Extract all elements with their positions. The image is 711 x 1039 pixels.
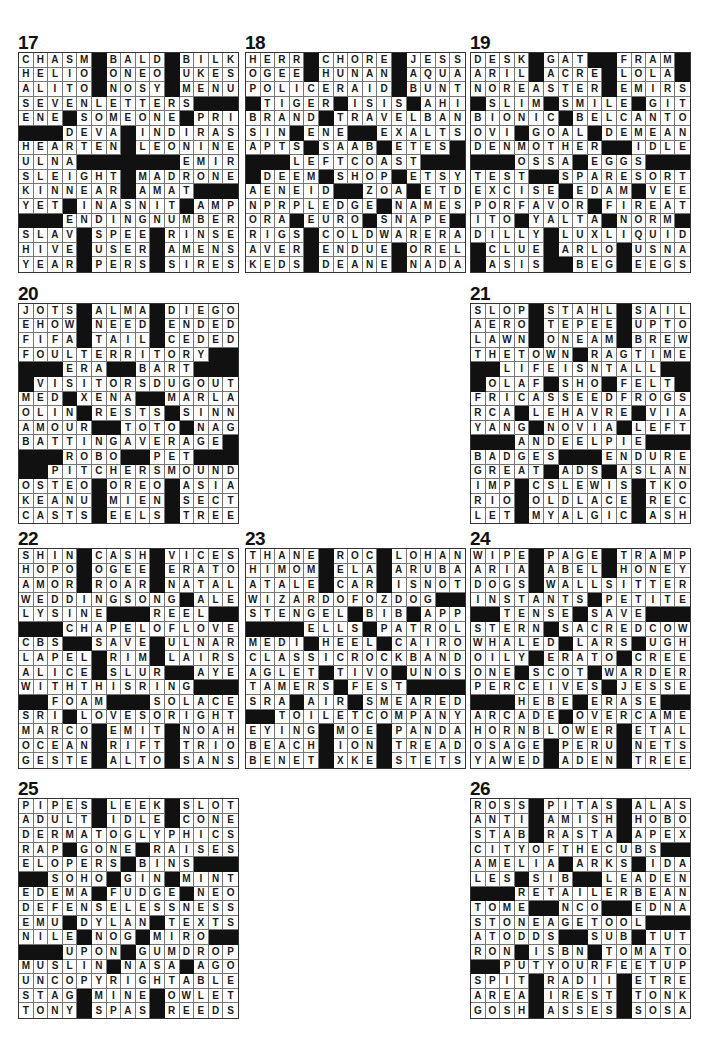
letter-cell: O [194, 377, 209, 392]
letter-cell: A [194, 960, 209, 975]
letter-cell: R [121, 348, 136, 363]
black-square [617, 739, 632, 754]
letter-cell: X [588, 228, 603, 243]
black-square [319, 666, 334, 681]
letter-cell: A [450, 724, 465, 739]
black-square [392, 666, 407, 681]
letter-cell: B [632, 843, 647, 858]
letter-cell: D [304, 111, 319, 126]
black-square [107, 872, 122, 887]
black-square [19, 465, 34, 480]
black-square [150, 304, 165, 319]
letter-cell: N [500, 141, 515, 156]
letter-cell: E [209, 989, 224, 1004]
letter-cell: O [48, 857, 63, 872]
black-square [529, 1003, 544, 1018]
letter-cell: C [92, 465, 107, 480]
black-square [180, 960, 195, 975]
black-square [150, 1003, 165, 1018]
letter-cell: A [559, 53, 574, 68]
black-square [304, 257, 319, 272]
black-square [544, 377, 559, 392]
black-square [529, 421, 544, 436]
black-square [19, 945, 34, 960]
letter-cell: S [150, 465, 165, 480]
black-square [529, 564, 544, 579]
letter-cell: S [544, 607, 559, 622]
letter-cell: J [407, 53, 422, 68]
letter-cell: E [486, 141, 501, 156]
letter-cell: N [165, 857, 180, 872]
crossword-puzzle-21: 21 SLOPSTAHLSAILAEROTEPEEUPTOLAWNONEAMBR… [470, 285, 691, 524]
black-square [165, 508, 180, 523]
letter-cell: E [194, 1003, 209, 1018]
black-square [63, 111, 78, 126]
letter-cell: D [19, 828, 34, 843]
letter-cell: A [602, 828, 617, 843]
letter-cell: O [194, 930, 209, 945]
black-square [180, 199, 195, 214]
letter-cell: E [363, 724, 378, 739]
letter-cell: S [529, 155, 544, 170]
letter-cell: R [261, 111, 276, 126]
letter-cell: P [77, 974, 92, 989]
letter-cell: B [515, 828, 530, 843]
letter-cell: R [436, 228, 451, 243]
letter-cell: I [48, 377, 63, 392]
letter-cell: R [646, 214, 661, 229]
letter-cell: G [209, 960, 224, 975]
black-square [48, 945, 63, 960]
letter-cell: R [136, 465, 151, 480]
letter-cell: A [471, 930, 486, 945]
letter-cell: A [559, 828, 574, 843]
letter-cell: R [500, 319, 515, 334]
letter-cell: C [544, 666, 559, 681]
letter-cell: L [136, 814, 151, 829]
letter-cell: A [107, 753, 122, 768]
letter-cell: M [19, 960, 34, 975]
letter-cell: S [544, 945, 559, 960]
letter-cell: R [588, 857, 603, 872]
letter-cell: D [136, 319, 151, 334]
letter-cell: I [348, 97, 363, 112]
letter-cell: R [334, 214, 349, 229]
letter-cell: K [194, 68, 209, 83]
black-square [261, 622, 276, 637]
black-square [392, 53, 407, 68]
black-square [63, 710, 78, 725]
letter-cell: L [421, 126, 436, 141]
letter-cell: U [421, 564, 436, 579]
black-square [165, 479, 180, 494]
letter-cell: L [602, 304, 617, 319]
letter-cell: R [500, 724, 515, 739]
black-square [275, 622, 290, 637]
black-square [121, 170, 136, 185]
letter-cell: N [19, 930, 34, 945]
letter-cell: A [48, 257, 63, 272]
letter-cell: X [334, 753, 349, 768]
black-square [150, 243, 165, 258]
letter-cell: S [136, 257, 151, 272]
black-square [77, 549, 92, 564]
letter-cell: T [223, 377, 238, 392]
letter-cell: E [121, 622, 136, 637]
black-square [450, 141, 465, 156]
letter-cell: T [602, 945, 617, 960]
letter-cell: O [559, 421, 574, 436]
letter-cell: F [617, 377, 632, 392]
letter-cell: A [661, 465, 676, 480]
letter-cell: O [646, 1003, 661, 1018]
letter-cell: T [486, 930, 501, 945]
black-square [304, 141, 319, 156]
letter-cell: E [48, 739, 63, 754]
black-square [19, 362, 34, 377]
letter-cell: N [588, 362, 603, 377]
black-square [223, 435, 238, 450]
letter-cell: T [121, 97, 136, 112]
letter-cell: A [559, 243, 574, 258]
letter-cell: E [165, 607, 180, 622]
letter-cell: U [165, 377, 180, 392]
letter-cell: B [529, 724, 544, 739]
black-square [471, 155, 486, 170]
letter-cell: E [19, 111, 34, 126]
